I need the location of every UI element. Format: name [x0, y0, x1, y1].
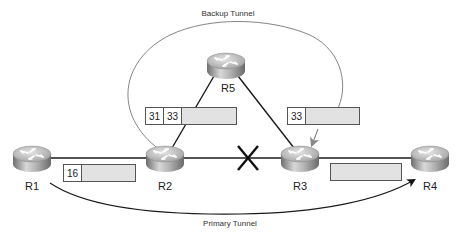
label-stack-r3-r4 — [330, 163, 402, 181]
label-stack-r1-r2: 16 — [63, 164, 136, 182]
link-r5-r3 — [238, 76, 294, 148]
router-r2-label: R2 — [158, 180, 172, 192]
backup-tunnel-label: Backup Tunnel — [202, 9, 255, 18]
primary-tunnel-label: Primary Tunnel — [203, 219, 257, 228]
mpls-label-inner: 33 — [164, 108, 182, 124]
mpls-label: 16 — [64, 165, 82, 181]
mpls-label-outer: 31 — [146, 108, 164, 124]
mpls-label: 33 — [288, 108, 306, 124]
router-r4-icon[interactable] — [411, 146, 449, 172]
router-r5-label: R5 — [221, 82, 235, 94]
packet-payload — [331, 164, 401, 180]
packet-payload — [82, 165, 135, 181]
packet-payload — [182, 108, 236, 124]
router-r5-icon[interactable] — [207, 53, 245, 79]
router-r3-icon[interactable] — [281, 146, 319, 172]
label-stack-r5-r3: 33 — [287, 107, 360, 125]
router-r1-icon[interactable] — [13, 146, 51, 172]
primary-tunnel-arc — [50, 180, 414, 214]
router-r1-label: R1 — [25, 180, 39, 192]
packet-payload — [306, 108, 359, 124]
label-stack-r2-r5: 31 33 — [145, 107, 237, 125]
router-r2-icon[interactable] — [146, 146, 184, 172]
router-r3-label: R3 — [293, 180, 307, 192]
router-r4-label: R4 — [423, 180, 437, 192]
backup-tunnel-arrow-icon — [312, 129, 318, 145]
backup-tunnel-arc — [128, 21, 343, 150]
